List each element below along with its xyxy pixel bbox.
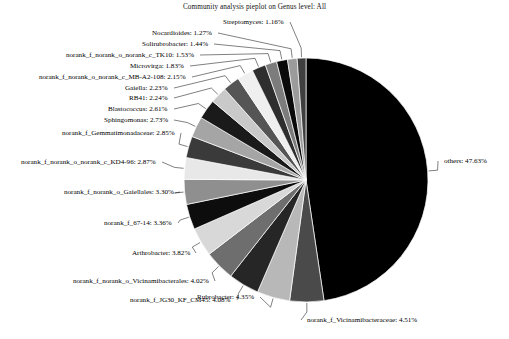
pie-slice-label: Streptomyces: 1.16% — [223, 19, 284, 26]
pie-slice-label: norank_f_norank_o_Gaiellales: 3.30% — [64, 189, 174, 196]
pie-slice-label: Sphingomonas: 2.73% — [104, 117, 168, 124]
pie-slice-label: norank_f_norank_o_norank_c_MB-A2-108: 2.… — [39, 74, 186, 81]
pie-slice[interactable] — [306, 58, 428, 301]
pie-slices-group — [184, 58, 428, 302]
pie-slice-label: Microvirga: 1.83% — [130, 63, 184, 70]
pie-slice-label: RB41: 2.24% — [129, 95, 168, 102]
pie-slice-label: norank_f_Vicinamibacteraceae: 4.51% — [307, 317, 417, 324]
pie-slice-label: norank_f_norank_o_norank_c_TK10: 1.53% — [66, 52, 194, 59]
pie-slice-label: Solirubrobacter: 1.44% — [142, 41, 208, 48]
pie-chart-figure: Community analysis pieplot on Genus leve… — [0, 0, 509, 339]
pie-slice-label: norank_f_Gemmatimonadaceae: 2.85% — [62, 130, 175, 137]
pie-slice-label: others: 47.63% — [444, 158, 487, 165]
pie-slice-label: norank_f_JG30_KF_CM45: 4.08% — [130, 297, 231, 304]
pie-slice-label: norank_f_norank_o_norank_c_KD4-96: 2.87% — [21, 159, 156, 166]
pie-slice-label: norank_f_norank_o_Vicinamibacterales: 4.… — [73, 278, 209, 285]
pie-slice-label: Nocardioides: 1.27% — [152, 30, 212, 37]
pie-slice-label: Blastococcus: 2.61% — [108, 106, 168, 113]
pie-slice-label: norank_f_67-14: 3.36% — [104, 220, 172, 227]
pie-slice-label: Gaiella: 2.23% — [125, 85, 168, 92]
pie-slice-label: Arthrobacter: 3.82% — [132, 250, 190, 257]
